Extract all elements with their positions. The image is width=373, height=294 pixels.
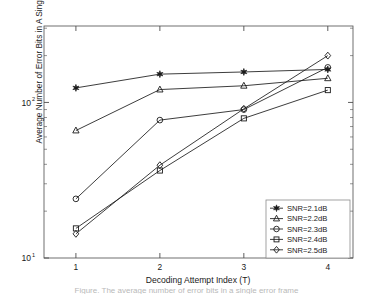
figure-caption: Figure. The average number of error bits… [0, 286, 373, 294]
svg-text:SNR=2.1dB: SNR=2.1dB [287, 204, 327, 213]
svg-text:4: 4 [325, 262, 330, 272]
svg-text:10: 10 [21, 253, 31, 263]
series-snr-2-2db [73, 75, 331, 133]
chart-canvas: 1011021234 SNR=2.1dBSNR=2.2dBSNR=2.3dBSN… [0, 0, 373, 294]
svg-text:10: 10 [21, 98, 31, 108]
triangle-marker [73, 127, 79, 133]
series-snr-2-3db [73, 65, 331, 202]
diamond-marker [325, 52, 331, 59]
svg-text:SNR=2.2dB: SNR=2.2dB [287, 214, 327, 223]
svg-text:SNR=2.5dB: SNR=2.5dB [287, 246, 327, 255]
x-axis-title: Decoding Attempt Index (T) [42, 275, 354, 285]
circle-marker [73, 196, 79, 202]
svg-text:1: 1 [32, 252, 35, 258]
chart-legend: SNR=2.1dBSNR=2.2dBSNR=2.3dBSNR=2.4dBSNR=… [266, 200, 350, 258]
y-axis-title: Average Number of Error Bits in A Single… [34, 0, 44, 164]
figure-container: 1011021234 SNR=2.1dBSNR=2.2dBSNR=2.3dBSN… [0, 0, 373, 294]
svg-text:1: 1 [74, 262, 79, 272]
triangle-marker [325, 75, 331, 81]
svg-text:2: 2 [158, 262, 163, 272]
svg-text:SNR=2.3dB: SNR=2.3dB [287, 225, 327, 234]
svg-text:3: 3 [242, 262, 247, 272]
triangle-marker [157, 86, 163, 92]
svg-text:SNR=2.4dB: SNR=2.4dB [287, 235, 327, 244]
